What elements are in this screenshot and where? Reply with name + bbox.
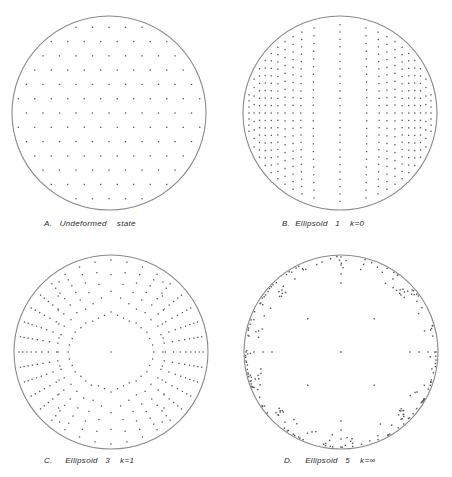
data-point (250, 383, 251, 384)
data-point (24, 321, 25, 322)
data-point (248, 112, 249, 113)
data-point (193, 337, 194, 338)
data-point (110, 412, 111, 413)
data-point (394, 73, 395, 74)
data-point (284, 168, 285, 169)
data-point (24, 381, 25, 382)
data-point (300, 76, 301, 77)
data-point (292, 112, 293, 113)
data-point (339, 157, 340, 158)
data-point (394, 160, 395, 161)
data-point (141, 198, 142, 199)
data-point (365, 190, 366, 191)
data-point (340, 420, 341, 421)
data-point (169, 420, 170, 421)
data-point (321, 261, 322, 262)
data-point (257, 389, 258, 390)
panel-b-ellipsoid-1 (243, 16, 437, 210)
data-point (366, 136, 367, 137)
data-point (152, 358, 153, 359)
data-point (181, 294, 182, 295)
data-point (100, 155, 101, 156)
data-point (313, 66, 314, 67)
data-point (386, 67, 387, 68)
data-point (292, 105, 293, 106)
data-point (92, 55, 93, 56)
data-point (64, 429, 65, 430)
data-point (378, 156, 379, 157)
data-point (84, 98, 85, 99)
data-point (83, 397, 84, 398)
data-point (92, 27, 93, 28)
data-point (94, 441, 95, 442)
data-point (141, 84, 142, 85)
data-point (110, 429, 111, 430)
data-point (313, 136, 314, 137)
data-point (178, 363, 179, 364)
data-point (22, 351, 23, 352)
data-point (403, 410, 404, 411)
data-point (166, 127, 167, 128)
data-point (379, 112, 380, 113)
data-point (378, 178, 379, 179)
data-point (162, 337, 163, 338)
data-point (363, 264, 364, 265)
data-point (186, 310, 187, 311)
data-point (402, 90, 403, 91)
data-point (162, 281, 163, 282)
data-point (284, 176, 285, 177)
data-point (425, 138, 426, 139)
data-point (378, 134, 379, 135)
data-point (248, 335, 249, 336)
data-point (378, 90, 379, 91)
data-point (366, 105, 367, 106)
data-point (339, 39, 340, 40)
data-point (197, 321, 198, 322)
data-point (386, 44, 387, 45)
data-point (100, 184, 101, 185)
data-point (414, 75, 415, 76)
data-point (425, 95, 426, 96)
data-point (332, 446, 333, 447)
data-point (378, 54, 379, 55)
data-point (42, 340, 43, 341)
data-point (394, 57, 395, 58)
data-point (174, 55, 175, 56)
data-point (292, 74, 293, 75)
data-point (193, 380, 194, 381)
data-point (253, 112, 254, 113)
data-point (110, 311, 111, 312)
data-point (58, 337, 59, 338)
data-point (418, 351, 419, 352)
data-point (150, 69, 151, 70)
data-point (366, 120, 367, 121)
data-point (386, 120, 387, 121)
data-point (284, 184, 285, 185)
data-point (172, 362, 173, 363)
data-point (117, 69, 118, 70)
data-point (136, 420, 137, 421)
data-point (431, 328, 432, 329)
data-point (339, 127, 340, 128)
data-point (110, 351, 111, 352)
data-point (339, 149, 340, 150)
data-point (412, 289, 413, 290)
data-point (271, 75, 272, 76)
data-point (31, 395, 32, 396)
data-point (100, 41, 101, 42)
data-point (414, 135, 415, 136)
data-point (171, 385, 172, 386)
data-point (124, 431, 125, 432)
data-point (201, 336, 202, 337)
data-point (199, 351, 200, 352)
data-point (250, 353, 251, 354)
data-point (292, 143, 293, 144)
data-point (150, 155, 151, 156)
data-point (161, 293, 162, 294)
data-point (141, 27, 142, 28)
data-point (168, 331, 169, 332)
data-point (84, 41, 85, 42)
data-point (339, 46, 340, 47)
data-point (259, 384, 260, 385)
data-point (339, 134, 340, 135)
